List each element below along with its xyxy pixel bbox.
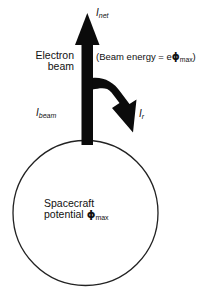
spacecraft-potential-subscript: max (95, 214, 108, 221)
spacecraft-potential-label: Spacecraft potential ϕmax (44, 198, 140, 222)
beam-energy-prefix: (Beam energy = e (96, 51, 172, 62)
beam-current-subscript: beam (39, 112, 57, 119)
figure-canvas: Inet Electron beam (Beam energy = eϕmax)… (0, 0, 208, 300)
return-current-subscript: r (142, 113, 144, 120)
beam-arrow-shaft (82, 40, 94, 145)
return-arrow-body (93, 78, 137, 133)
electron-beam-label: Electron beam (12, 50, 74, 73)
beam-energy-label: (Beam energy = eϕmax) (96, 52, 196, 63)
net-current-subscript: net (99, 12, 109, 19)
diagram-svg (0, 0, 208, 300)
phi-symbol-icon: ϕ (172, 51, 180, 62)
beam-current-label: Ibeam (36, 108, 56, 120)
return-current-label: Ir (139, 109, 144, 121)
beam-energy-subscript: max (180, 56, 193, 63)
net-current-label: Inet (96, 8, 109, 20)
electron-beam-line2: beam (48, 60, 74, 72)
spacecraft-potential-line1: Spacecraft (44, 197, 94, 209)
electron-beam-line1: Electron (35, 49, 74, 61)
return-current-arrow (93, 78, 137, 133)
spacecraft-potential-line2-prefix: potential (44, 208, 87, 220)
beam-energy-suffix: ) (193, 51, 196, 62)
